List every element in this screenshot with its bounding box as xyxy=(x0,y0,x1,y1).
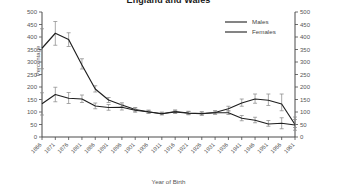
series-line-males xyxy=(42,33,295,124)
x-tick-label: 1951 xyxy=(256,141,269,154)
y-tick-label-left: 200 xyxy=(27,84,38,90)
x-tick-label: 1901 xyxy=(123,141,136,154)
y-tick-label-right: 400 xyxy=(300,34,311,40)
y-tick-label-right: 500 xyxy=(300,9,311,15)
y-tick-label-left: 400 xyxy=(27,34,38,40)
x-tick-label: 1876 xyxy=(56,141,69,154)
y-tick-label-left: 500 xyxy=(27,9,38,15)
y-tick-label-right: 300 xyxy=(300,59,311,65)
y-tick-label-left: 50 xyxy=(30,122,37,128)
x-tick-label: 1886 xyxy=(83,141,96,154)
chart-plot-area: 0050501001001501502002002502503003003503… xyxy=(0,0,337,192)
x-tick-label: 1916 xyxy=(163,141,176,154)
y-tick-label-right: 250 xyxy=(300,72,311,78)
x-tick-label: 1941 xyxy=(229,141,242,154)
y-tick-label-left: 350 xyxy=(27,47,38,53)
y-tick-label-left: 250 xyxy=(27,72,38,78)
x-tick-label: 1896 xyxy=(110,141,123,154)
y-tick-label-left: 100 xyxy=(27,109,38,115)
y-tick-label-left: 450 xyxy=(27,22,38,28)
x-tick-label: 1921 xyxy=(176,141,189,154)
y-tick-label-left: 150 xyxy=(27,97,38,103)
x-tick-label: 1956 xyxy=(269,141,282,154)
x-tick-label: 1961 xyxy=(283,141,296,154)
x-tick-label: 1871 xyxy=(43,141,56,154)
x-tick-label: 1891 xyxy=(96,141,109,154)
y-tick-label-left: 300 xyxy=(27,59,38,65)
y-tick-label-right: 200 xyxy=(300,84,311,90)
x-tick-label: 1881 xyxy=(70,141,83,154)
x-tick-label: 1906 xyxy=(136,141,149,154)
y-tick-label-right: 0 xyxy=(300,134,304,140)
x-tick-label: 1931 xyxy=(203,141,216,154)
chart-root: England and Wales Percentage Year of Bir… xyxy=(0,0,337,192)
legend-label: Females xyxy=(252,28,276,35)
y-tick-label-right: 450 xyxy=(300,22,311,28)
x-tick-label: 1866 xyxy=(30,141,43,154)
x-tick-label: 1936 xyxy=(216,141,229,154)
x-tick-label: 1911 xyxy=(150,141,163,154)
legend-label: Males xyxy=(252,18,269,25)
y-tick-label-right: 100 xyxy=(300,109,311,115)
x-tick-label: 1946 xyxy=(243,141,256,154)
y-tick-label-right: 150 xyxy=(300,97,311,103)
x-tick-label: 1926 xyxy=(189,141,202,154)
y-tick-label-right: 350 xyxy=(300,47,311,53)
y-tick-label-right: 50 xyxy=(300,122,307,128)
y-tick-label-left: 0 xyxy=(34,134,38,140)
